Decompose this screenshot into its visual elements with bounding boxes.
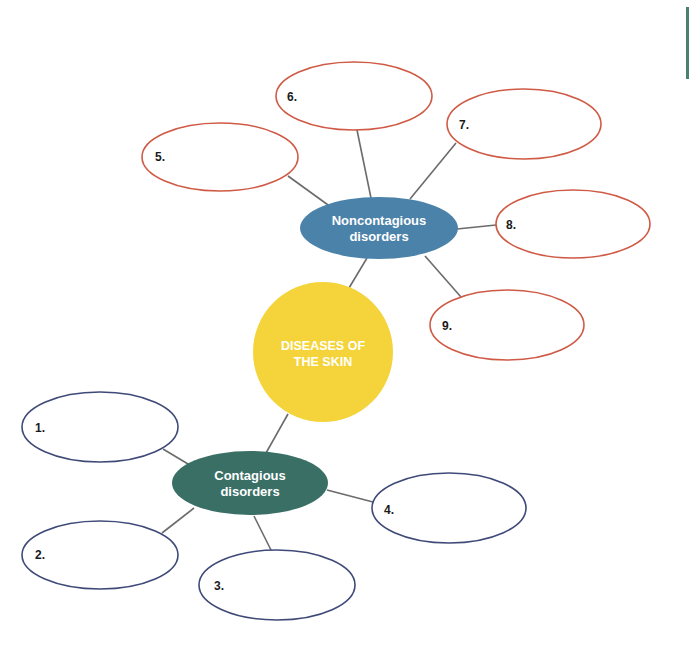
blank-5-number: 5. xyxy=(155,150,165,164)
blank-5[interactable]: 5. xyxy=(142,123,298,191)
contagious-hub: Contagious disorders xyxy=(172,451,328,515)
blank-2-number: 2. xyxy=(35,548,45,562)
noncontagious-hub: Noncontagious disorders xyxy=(300,197,458,259)
connector-center-contagious xyxy=(266,414,288,453)
blank-3[interactable]: 3. xyxy=(199,550,355,620)
center-label-line2: THE SKIN xyxy=(294,355,352,369)
blank-8-number: 8. xyxy=(506,218,516,232)
blank-6[interactable]: 6. xyxy=(276,62,432,130)
noncontagious-label-line1: Noncontagious xyxy=(332,213,427,228)
contagious-label-line2: disorders xyxy=(220,484,279,499)
connector-9 xyxy=(425,256,461,297)
blank-8[interactable]: 8. xyxy=(496,190,650,258)
connector-6 xyxy=(357,130,371,198)
blank-9[interactable]: 9. xyxy=(430,290,584,360)
blank-7[interactable]: 7. xyxy=(447,89,601,159)
connector-3 xyxy=(254,516,272,552)
connector-7 xyxy=(410,143,456,199)
blank-6-number: 6. xyxy=(287,90,297,104)
blank-1[interactable]: 1. xyxy=(22,392,178,462)
blank-1-number: 1. xyxy=(35,421,45,435)
connector-2 xyxy=(162,508,194,533)
noncontagious-label-line2: disorders xyxy=(349,229,408,244)
blank-2[interactable]: 2. xyxy=(22,521,178,589)
blank-7-number: 7. xyxy=(459,118,469,132)
blank-3-number: 3. xyxy=(214,579,224,593)
center-label-line1: DISEASES OF xyxy=(281,339,365,353)
blank-9-number: 9. xyxy=(442,319,452,333)
connector-noncontagious-center xyxy=(349,258,367,288)
center-topic: DISEASES OF THE SKIN xyxy=(253,282,393,422)
contagious-label-line1: Contagious xyxy=(214,468,286,483)
connector-4 xyxy=(327,490,373,502)
mind-map: 5. 6. 7. 8. 9. Noncontagious disorders D… xyxy=(0,0,689,652)
blank-4[interactable]: 4. xyxy=(372,473,526,543)
connector-8 xyxy=(457,225,496,229)
blank-4-number: 4. xyxy=(384,503,394,517)
